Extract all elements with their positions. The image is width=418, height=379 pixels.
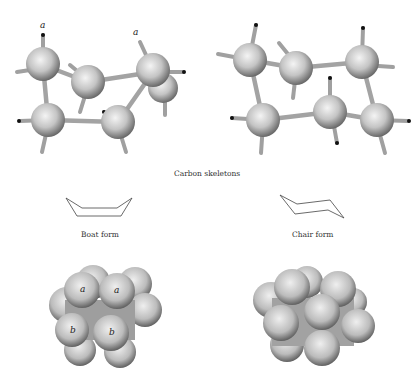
boat-space-filling-model: a a b b [49,265,162,368]
carbon-atom [26,47,60,81]
caption-carbon-skeletons: Carbon skeletons [174,169,240,178]
carbon-atom [101,105,135,139]
hydrogen-atom [263,305,299,341]
chair-space-filling-model [253,266,375,366]
hydrogen-atom [341,309,375,343]
boat-skeleton [66,198,132,216]
hydrogen-atom [304,294,340,330]
boat-ball-and-stick-model: a a [17,20,186,152]
chair-skeleton [280,195,344,218]
label-a: a [133,27,138,37]
cyclohexane-figure: a a [0,0,418,379]
label-b: b [109,327,115,337]
caption-chair-form: Chair form [292,230,333,239]
label-a: a [80,284,85,294]
carbon-atom [279,51,313,85]
carbon-atom [71,65,105,99]
carbon-atom [313,95,347,129]
carbon-atom [136,53,170,87]
hydrogen-atom [274,269,310,305]
carbon-atom [345,45,379,79]
carbon-atom [31,103,65,137]
chair-ball-and-stick-model [218,23,411,153]
carbon-atom [246,103,280,137]
carbon-atom [233,43,267,77]
label-a: a [114,285,119,295]
label-b: b [70,325,76,335]
label-a: a [40,20,45,30]
caption-boat-form: Boat form [81,230,119,239]
carbon-atom [360,103,394,137]
hydrogen-atom [304,330,340,366]
